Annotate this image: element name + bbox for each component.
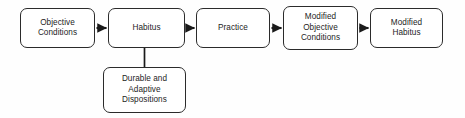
- node-practice: Practice: [196, 8, 270, 48]
- node-modified-habitus: Modified Habitus: [370, 8, 443, 48]
- node-label-durable-adaptive-dispositions: Durable and Adaptive Dispositions: [120, 74, 169, 105]
- node-label-practice: Practice: [216, 23, 250, 33]
- node-modified-objective-conditions: Modified Objective Conditions: [283, 6, 358, 50]
- flowchart-diagram: Objective Conditions Habitus Practice Mo…: [0, 0, 465, 118]
- node-label-objective-conditions: Objective Conditions: [36, 18, 79, 39]
- node-habitus: Habitus: [108, 8, 185, 48]
- node-label-habitus: Habitus: [130, 23, 162, 33]
- node-durable-adaptive-dispositions: Durable and Adaptive Dispositions: [103, 67, 186, 113]
- node-objective-conditions: Objective Conditions: [20, 8, 95, 48]
- node-label-modified-objective-conditions: Modified Objective Conditions: [299, 12, 342, 43]
- node-label-modified-habitus: Modified Habitus: [389, 18, 424, 39]
